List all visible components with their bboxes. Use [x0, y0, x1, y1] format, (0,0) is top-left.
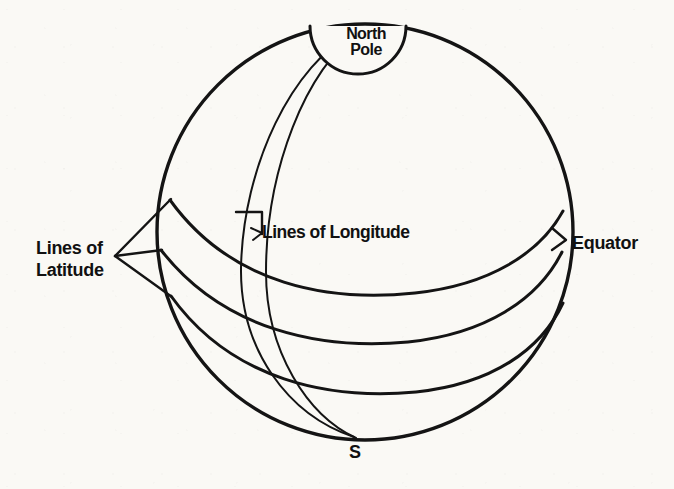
arrowhead-equator-icon [552, 228, 566, 250]
label-north-pole: NorthPole [318, 26, 414, 58]
globe-diagram-canvas: NorthPole Lines of Longitude Lines ofLat… [0, 0, 674, 489]
latitude-line-mid [161, 250, 562, 344]
label-south-pole: S [340, 443, 370, 461]
label-equator: Equator [572, 234, 638, 252]
label-lines-of-latitude-line1: Lines of [36, 238, 103, 258]
latitude-line-equator [170, 200, 563, 295]
leader-line-latitude-2 [115, 250, 162, 256]
leader-line-latitude-1 [115, 199, 171, 256]
label-north-pole-line1: North [346, 25, 386, 42]
arrowhead-longitude-icon [251, 228, 262, 240]
label-lines-of-latitude-line2: Latitude [36, 260, 104, 280]
label-north-pole-line2: Pole [350, 41, 381, 58]
label-lines-of-latitude: Lines ofLatitude [36, 238, 104, 282]
label-lines-of-longitude: Lines of Longitude [262, 224, 410, 242]
